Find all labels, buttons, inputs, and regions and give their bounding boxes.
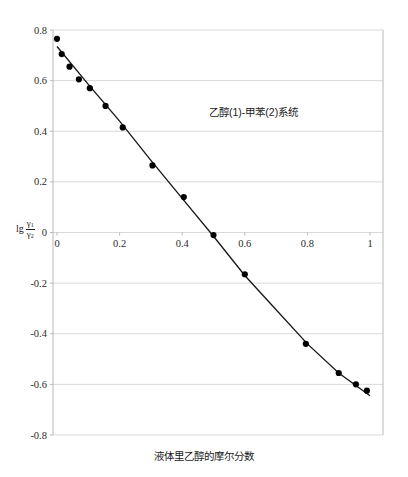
data-point xyxy=(181,194,187,200)
y-tick-label: -0.8 xyxy=(30,430,47,441)
x-axis-label: 液体里乙醇的摩尔分数 xyxy=(0,448,408,463)
data-point xyxy=(353,381,359,387)
y-tick-label: -0.2 xyxy=(30,278,47,289)
y-axis-label: lg γ1 γ2 xyxy=(16,212,56,246)
data-point xyxy=(336,370,342,376)
fit-curve xyxy=(57,46,370,395)
chart-figure: 00.20.40.60.81 0.80.60.40.20-0.2-0.4-0.6… xyxy=(0,0,408,477)
y-tick-label: 0.4 xyxy=(34,126,48,137)
gridlines xyxy=(53,30,383,435)
data-points xyxy=(54,36,370,394)
data-point xyxy=(303,341,309,347)
trend-line xyxy=(57,46,370,395)
data-point xyxy=(364,388,370,394)
y-tick-label: -0.4 xyxy=(30,328,47,339)
x-tick-label: 0.2 xyxy=(113,238,126,249)
data-point xyxy=(149,162,155,168)
y-tick-label: 0.6 xyxy=(34,75,47,86)
data-point xyxy=(120,124,126,130)
y-tick-label: -0.6 xyxy=(30,379,47,390)
data-point xyxy=(87,85,93,91)
y-axis-label-denominator: γ2 xyxy=(26,230,35,239)
data-point xyxy=(66,64,72,70)
data-point xyxy=(59,51,65,57)
data-point xyxy=(210,232,216,238)
data-point xyxy=(54,36,60,42)
y-axis-label-fraction: γ1 γ2 xyxy=(26,219,35,239)
x-tick-label: 0.8 xyxy=(301,238,314,249)
y-axis-label-numerator: γ1 xyxy=(26,219,35,229)
x-tick-label: 0.4 xyxy=(176,238,190,249)
y-axis-label-prefix: lg xyxy=(16,224,24,234)
series-annotation: 乙醇(1)-甲苯(2)系统 xyxy=(209,104,298,119)
x-tick-labels: 00.20.40.60.81 xyxy=(54,238,372,249)
plot-canvas: 00.20.40.60.81 0.80.60.40.20-0.2-0.4-0.6… xyxy=(0,0,408,477)
y-tick-label: 0.8 xyxy=(34,25,47,36)
data-point xyxy=(76,76,82,82)
x-tick-label: 1 xyxy=(367,238,372,249)
data-point xyxy=(242,271,248,277)
data-point xyxy=(102,103,108,109)
y-tick-label: 0.2 xyxy=(34,176,47,187)
x-tick-label: 0.6 xyxy=(238,238,251,249)
